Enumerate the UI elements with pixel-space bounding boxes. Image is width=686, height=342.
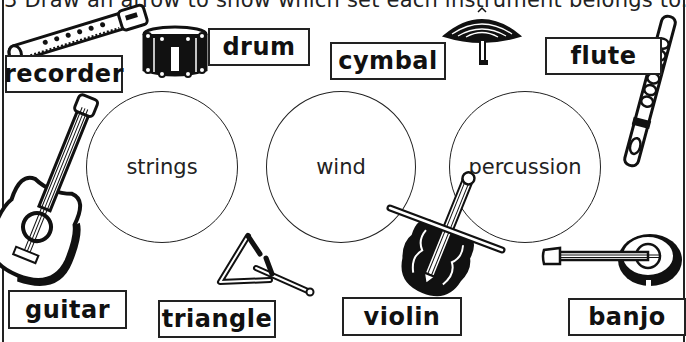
label-violin-text: violin (364, 303, 441, 331)
label-cymbal[interactable]: cymbal (330, 42, 446, 80)
flute-icon (630, 12, 670, 170)
guitar-icon (2, 90, 102, 286)
label-triangle-text: triangle (162, 305, 273, 333)
label-violin[interactable]: violin (342, 297, 462, 336)
set-label-wind: wind (316, 155, 366, 179)
banjo-icon (542, 230, 686, 292)
label-banjo-text: banjo (588, 303, 666, 331)
label-recorder-text: recorder (4, 60, 124, 88)
worksheet: 3 Draw an arrow to show which set each i… (0, 0, 686, 342)
set-label-strings: strings (126, 155, 197, 179)
drum-icon (140, 24, 210, 82)
label-guitar[interactable]: guitar (8, 290, 127, 329)
cymbal-icon (442, 10, 522, 68)
label-banjo[interactable]: banjo (568, 298, 686, 336)
label-guitar-text: guitar (25, 296, 110, 324)
set-circle-strings[interactable]: strings (86, 91, 238, 243)
triangle-icon (214, 232, 318, 296)
label-drum[interactable]: drum (208, 28, 310, 66)
label-flute-text: flute (570, 42, 636, 70)
label-recorder[interactable]: recorder (5, 55, 123, 93)
label-drum-text: drum (222, 33, 295, 61)
label-cymbal-text: cymbal (338, 47, 437, 75)
recorder-icon (4, 8, 154, 58)
label-triangle[interactable]: triangle (158, 300, 276, 338)
violin-icon (390, 168, 502, 300)
label-flute[interactable]: flute (545, 37, 662, 75)
